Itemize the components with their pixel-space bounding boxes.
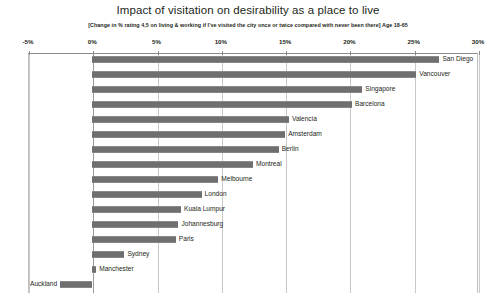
bar-category-label: Barcelona [355, 99, 385, 109]
bar-category-label: Auckland [30, 279, 57, 289]
x-axis-tick-label: 5% [152, 38, 161, 45]
bar [92, 116, 289, 123]
bar [92, 251, 124, 258]
bar-category-label: Montreal [256, 159, 282, 169]
x-axis-tick-label: 15% [279, 38, 291, 45]
bar [92, 71, 416, 78]
bar-category-label: Vancouver [419, 69, 450, 79]
bar-row: Amsterdam [0, 128, 496, 143]
bar [92, 221, 178, 228]
bar [92, 191, 201, 198]
bar [92, 266, 96, 273]
x-axis-tick-label: 25% [408, 38, 420, 45]
bar-row: Paris [0, 233, 496, 248]
bar [92, 86, 362, 93]
x-axis-tick-label: 10% [215, 38, 227, 45]
x-axis-tick-label: -5% [22, 38, 33, 45]
bar-category-label: Sydney [127, 249, 149, 259]
bar-category-label: Manchester [99, 264, 133, 274]
bar-category-label: London [205, 189, 227, 199]
chart-subtitle: [Change in % rating 4,5 on living & work… [0, 22, 496, 28]
bar-row: Valencia [0, 113, 496, 128]
bar [60, 281, 92, 288]
bar-row: Auckland [0, 278, 496, 293]
bar-category-label: Valencia [292, 114, 317, 124]
x-axis-tick-label: 0% [88, 38, 97, 45]
bar-row: Vancouver [0, 68, 496, 83]
bar [92, 131, 285, 138]
bar-row: London [0, 188, 496, 203]
bar-category-label: Singapore [365, 84, 395, 94]
bar-row: Sydney [0, 248, 496, 263]
bar-row: Singapore [0, 83, 496, 98]
bar-row: San Diego [0, 53, 496, 68]
bar-category-label: Kuala Lumpur [184, 204, 225, 214]
bar-row: Johannesburg [0, 218, 496, 233]
bar [92, 236, 176, 243]
chart-container: Impact of visitation on desirability as … [0, 0, 496, 299]
bar-row: Kuala Lumpur [0, 203, 496, 218]
x-axis-tick-label: 30% [472, 38, 484, 45]
bar-series: San DiegoVancouverSingaporeBarcelonaVale… [0, 53, 496, 293]
bar-row: Melbourne [0, 173, 496, 188]
bar-category-label: Amsterdam [288, 129, 322, 139]
bar [92, 101, 352, 108]
bar [92, 161, 253, 168]
bar-row: Berlin [0, 143, 496, 158]
bar [92, 176, 218, 183]
bar-row: Barcelona [0, 98, 496, 113]
bar-category-label: Paris [179, 234, 194, 244]
chart-title: Impact of visitation on desirability as … [0, 4, 496, 16]
bar-category-label: San Diego [442, 54, 473, 64]
bar-row: Manchester [0, 263, 496, 278]
bar [92, 146, 278, 153]
bar [92, 206, 181, 213]
x-axis-tick-label: 20% [343, 38, 355, 45]
bar-category-label: Melbourne [221, 174, 252, 184]
bar-row: Montreal [0, 158, 496, 173]
bar-category-label: Johannesburg [181, 219, 223, 229]
bar-category-label: Berlin [282, 144, 299, 154]
bar [92, 56, 439, 63]
